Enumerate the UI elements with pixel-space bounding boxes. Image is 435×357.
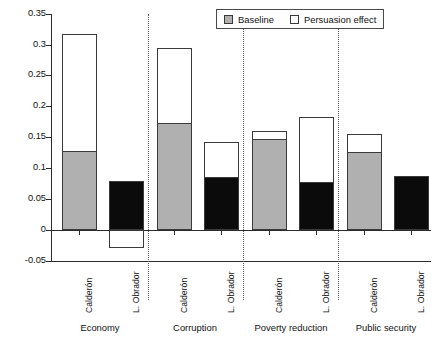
y-tick-label: 0	[16, 225, 46, 234]
group-separator	[148, 14, 150, 300]
y-tick-label: 0.2	[16, 101, 46, 110]
y-tick-mark	[46, 14, 51, 15]
x-tick-mark	[269, 231, 270, 235]
bar-segment-baseline	[62, 151, 97, 230]
x-label-candidate: Calderón	[179, 278, 189, 313]
x-label-candidate: L. Obrador	[416, 271, 426, 313]
x-tick-mark	[316, 231, 317, 235]
y-axis-line	[51, 14, 52, 261]
bar-segment-persuasion	[157, 48, 192, 124]
figure: Probability of rating each candidate as …	[0, 0, 435, 357]
x-tick-mark	[411, 231, 412, 235]
bar-segment-baseline	[157, 123, 192, 230]
y-tick-mark	[46, 199, 51, 200]
bar-economy-lobrador-negative	[109, 230, 144, 248]
bar-segment-baseline	[109, 181, 144, 230]
group-label-poverty: Poverty reduction	[245, 322, 337, 333]
y-tick-label: 0.35	[16, 9, 46, 18]
group-separator	[338, 14, 340, 300]
bar-poverty-lobrador	[299, 117, 334, 230]
y-tick-label: 0.25	[16, 70, 46, 79]
x-label-candidate: Calderón	[369, 278, 379, 313]
y-tick-mark	[46, 168, 51, 169]
bar-segment-persuasion	[347, 134, 382, 153]
legend-swatch-persuasion-icon	[290, 15, 299, 24]
zero-baseline-line	[51, 230, 431, 231]
legend-swatch-baseline-icon	[224, 15, 233, 24]
legend-label-persuasion: Persuasion effect	[304, 14, 376, 25]
y-tick-mark	[46, 137, 51, 138]
bar-segment-baseline	[252, 139, 287, 230]
y-axis-tick-labels: 0.35 0.3 0.25 0.2 0.15 0.1 0.05 0 -0.05	[14, 0, 46, 357]
bar-segment-persuasion	[62, 34, 97, 152]
x-label-candidate: L. Obrador	[226, 271, 236, 313]
x-label-candidate: L. Obrador	[321, 271, 331, 313]
group-separator	[243, 14, 245, 300]
bar-economy-calderon	[62, 34, 97, 230]
bar-segment-persuasion	[204, 142, 239, 178]
legend-label-baseline: Baseline	[238, 14, 274, 25]
x-tick-mark	[364, 231, 365, 235]
group-label-economy: Economy	[55, 322, 145, 333]
group-label-corruption: Corruption	[150, 322, 240, 333]
y-tick-label: -0.05	[16, 256, 46, 265]
y-tick-label: 0.3	[16, 40, 46, 49]
legend: Baseline Persuasion effect	[216, 9, 384, 29]
bar-poverty-calderon	[252, 131, 287, 230]
group-label-security: Public security	[340, 322, 432, 333]
bar-security-lobrador	[394, 176, 429, 230]
x-label-candidate: L. Obrador	[131, 271, 141, 313]
bar-segment-persuasion-negative	[109, 230, 144, 248]
y-tick-mark	[46, 106, 51, 107]
y-tick-label: 0.05	[16, 194, 46, 203]
bar-segment-persuasion	[299, 117, 334, 183]
y-tick-label: 0.1	[16, 163, 46, 172]
bar-corruption-calderon	[157, 48, 192, 230]
legend-item-baseline: Baseline	[224, 14, 274, 25]
bar-segment-baseline	[394, 176, 429, 230]
x-label-candidate: Calderón	[274, 278, 284, 313]
x-axis-line	[51, 261, 431, 262]
y-tick-label: 0.15	[16, 132, 46, 141]
y-tick-mark	[46, 75, 51, 76]
x-label-candidate: Calderón	[84, 278, 94, 313]
bar-segment-baseline	[299, 182, 334, 230]
bar-economy-lobrador	[109, 181, 144, 230]
bar-segment-baseline	[204, 177, 239, 230]
bar-security-calderon	[347, 134, 382, 230]
y-tick-mark	[46, 45, 51, 46]
x-tick-mark	[221, 231, 222, 235]
bar-corruption-lobrador	[204, 142, 239, 230]
bar-segment-baseline	[347, 152, 382, 230]
x-tick-mark	[174, 231, 175, 235]
x-tick-mark	[79, 231, 80, 235]
legend-item-persuasion: Persuasion effect	[290, 14, 376, 25]
